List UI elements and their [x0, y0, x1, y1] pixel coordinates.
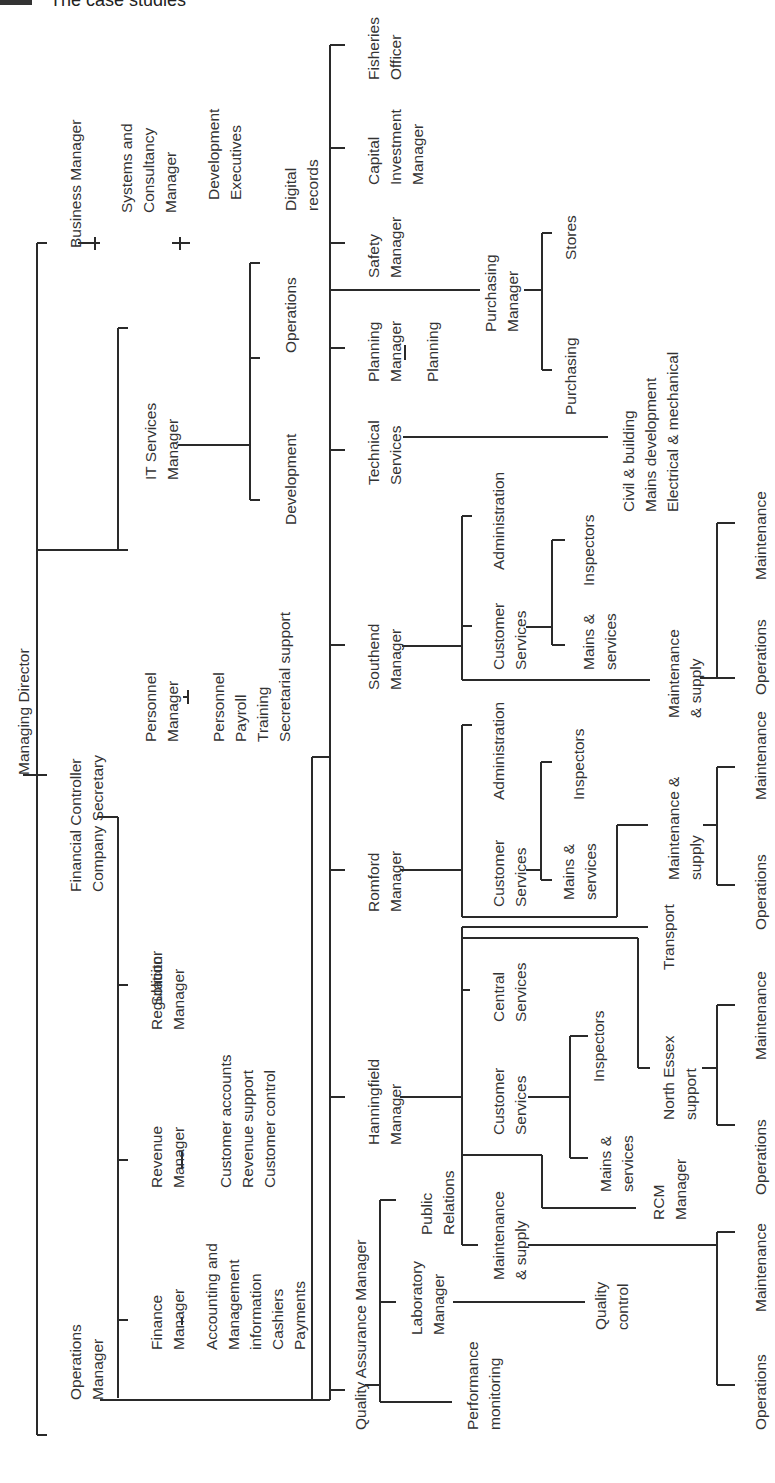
node-r-cs: CustomerServices — [490, 840, 529, 907]
node-label: Manager — [387, 1084, 404, 1145]
node-h-insp: Inspectors — [590, 1010, 607, 1082]
node-pm: PersonnelManager — [142, 672, 181, 742]
node-label: Public — [418, 1193, 435, 1235]
node-label: Payroll — [232, 695, 249, 742]
node-label: Management — [225, 1259, 242, 1350]
node-label: support — [682, 1068, 699, 1120]
node-label: Purchasing — [562, 337, 579, 415]
node-fin-sub: Accounting andManagementinformationCashi… — [203, 1243, 308, 1350]
node-label: Maintenance — [665, 629, 682, 718]
node-label: Manager — [170, 1289, 187, 1350]
node-transport: Transport — [660, 904, 677, 970]
node-label: North Essex — [660, 1035, 677, 1120]
node-label: Purchasing — [482, 254, 499, 332]
node-label: monitoring — [486, 1358, 503, 1430]
node-label: Personnel — [142, 672, 159, 742]
node-label: information — [247, 1273, 264, 1350]
node-qa: Quality Assurance Manager — [352, 1240, 369, 1430]
node-stores: Stores — [562, 215, 579, 260]
node-label: Development — [205, 108, 222, 200]
node-label: Customer control — [261, 1070, 278, 1188]
node-label: Manager — [170, 1127, 187, 1188]
node-label: Fisheries — [365, 17, 382, 80]
node-fin: FinanceManager — [148, 1289, 187, 1350]
node-label: Cashiers — [269, 1289, 286, 1350]
node-s-ops: Operations — [752, 619, 769, 695]
node-label: Services — [512, 962, 529, 1022]
node-label: Regulation — [148, 956, 165, 1030]
node-reg: RegulationManager — [148, 956, 187, 1030]
node-h-maint: Maintenance — [752, 1223, 769, 1312]
node-label: Safety — [365, 234, 382, 278]
node-label: Managing Director — [15, 648, 32, 775]
node-label: Development — [282, 433, 299, 525]
node-label: Central — [490, 972, 507, 1022]
node-label: Manager — [430, 1274, 447, 1335]
node-label: Southend — [365, 624, 382, 690]
node-label: Investment — [387, 108, 404, 185]
node-label: Inspectors — [570, 728, 587, 800]
node-label: Civil & building — [620, 410, 637, 512]
node-label: Electrical & mechanical — [664, 352, 681, 512]
node-qc: Qualitycontrol — [592, 1282, 631, 1330]
node-label: Capital — [365, 137, 382, 185]
node-label: Operations — [752, 1119, 769, 1195]
node-h-central: CentralServices — [490, 962, 529, 1022]
node-label: Training — [254, 687, 271, 742]
node-label: Executives — [227, 125, 244, 200]
node-ne-ops: Operations — [752, 1119, 769, 1195]
node-cap: CapitalInvestmentManager — [365, 108, 426, 185]
node-label: Operations — [282, 277, 299, 353]
node-bm: Business Manager — [67, 120, 84, 248]
node-label: Planning — [365, 322, 382, 382]
node-label: Payments — [291, 1281, 308, 1350]
node-label: Technical — [365, 420, 382, 485]
node-purchasing: Purchasing — [562, 337, 579, 415]
node-label: Administration — [490, 702, 507, 800]
node-label: Quality — [592, 1282, 609, 1330]
node-tech-sub: Civil & buildingMains developmentElectri… — [620, 352, 681, 512]
node-label: Digital — [282, 168, 299, 211]
node-label: Hanningfield — [365, 1059, 382, 1145]
node-md: Managing Director — [15, 648, 32, 775]
node-label: Quality Assurance Manager — [352, 1240, 369, 1430]
node-label: Inspectors — [590, 1010, 607, 1082]
node-it-dig: Digitalrecords — [282, 159, 321, 211]
node-label: Business Manager — [67, 120, 84, 248]
node-label: Manager — [387, 321, 404, 382]
node-s-maint: Maintenance — [752, 491, 769, 580]
node-label: Operations — [752, 619, 769, 695]
node-h-ops: Operations — [752, 1354, 769, 1430]
node-it-ops: Operations — [282, 277, 299, 353]
node-fc: Financial ControllerCompany Secretary — [67, 755, 106, 892]
node-label: Administration — [490, 472, 507, 570]
node-om: OperationsManager — [67, 1324, 106, 1400]
node-rev: RevenueManager — [148, 1126, 187, 1188]
node-label: Operations — [752, 1354, 769, 1430]
node-label: RCM — [650, 1185, 667, 1220]
node-lab: LaboratoryManager — [408, 1261, 447, 1335]
node-fish: FisheriesOfficer — [365, 17, 404, 80]
node-label: Services — [387, 425, 404, 485]
node-label: Performance — [464, 1341, 481, 1430]
node-label: Consultancy — [140, 127, 157, 213]
node-it-dev: Development — [282, 433, 299, 525]
node-label: control — [614, 1283, 631, 1330]
node-label: Operations — [67, 1324, 84, 1400]
node-label: Company Secretary — [89, 755, 106, 892]
node-label: Customer — [490, 840, 507, 907]
node-label: Manager — [387, 851, 404, 912]
node-plan: PlanningManager — [365, 321, 404, 382]
node-label: Manager — [164, 419, 181, 480]
node-rom: RomfordManager — [365, 851, 404, 912]
node-label: Inspectors — [580, 514, 597, 586]
node-scm: Systems andConsultancyManager — [118, 123, 179, 213]
node-label: services — [582, 843, 599, 900]
node-label: Services — [512, 1075, 529, 1135]
node-han: HanningfieldManager — [365, 1059, 404, 1145]
node-s-ms: Maintenance& supply — [665, 629, 704, 718]
node-label: Manager — [672, 1159, 689, 1220]
node-purch: PurchasingManager — [482, 254, 521, 332]
node-label: Manager — [409, 124, 426, 185]
node-h-ms: Maintenance& supply — [490, 1191, 529, 1280]
